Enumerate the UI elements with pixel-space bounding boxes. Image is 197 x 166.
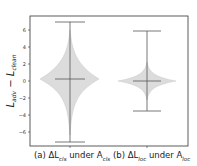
svg-text:−2: −2 bbox=[19, 95, 26, 101]
svg-text:−6: −6 bbox=[19, 129, 26, 135]
caption-a: (a) ΔLcls under Acls bbox=[34, 150, 110, 162]
svg-text:6: 6 bbox=[23, 27, 26, 33]
y-ticks: 6 4 2 0 −2 −4 −6 bbox=[19, 27, 30, 135]
caption-b: (b) ΔLloc under Aloc bbox=[113, 150, 190, 162]
svg-text:−4: −4 bbox=[19, 112, 26, 118]
y-axis-label: Ladv − Lclean bbox=[5, 54, 17, 107]
violin-chart: 6 4 2 0 −2 −4 −6 Ladv − Lclean bbox=[0, 0, 197, 166]
violin-a bbox=[40, 30, 99, 135]
svg-text:4: 4 bbox=[23, 44, 26, 50]
svg-text:0: 0 bbox=[23, 78, 26, 84]
svg-text:2: 2 bbox=[23, 61, 26, 67]
